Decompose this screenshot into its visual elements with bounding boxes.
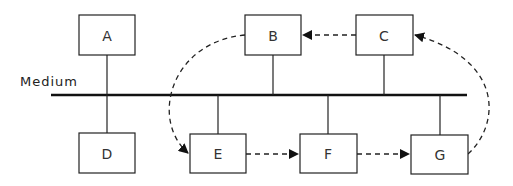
node-a: A xyxy=(79,15,135,55)
node-e-label: E xyxy=(214,146,223,162)
node-f: F xyxy=(300,134,357,173)
node-e: E xyxy=(190,134,246,173)
node-d-label: D xyxy=(102,146,113,162)
node-g: G xyxy=(411,135,468,174)
node-c: C xyxy=(356,15,413,55)
ring-on-bus-diagram: Medium A B C D E F G xyxy=(0,0,513,186)
medium-label: Medium xyxy=(20,74,78,89)
node-f-label: F xyxy=(324,146,332,162)
node-g-label: G xyxy=(435,147,446,163)
node-c-label: C xyxy=(379,28,389,44)
node-b-label: B xyxy=(268,28,278,44)
node-b: B xyxy=(245,15,301,55)
node-a-label: A xyxy=(102,28,112,44)
node-d: D xyxy=(79,133,135,173)
